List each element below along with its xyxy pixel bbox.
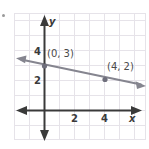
point-label-0-3: (0, 3) bbox=[47, 49, 74, 59]
x-tick-label-4: 4 bbox=[101, 114, 108, 124]
data-point-0-3 bbox=[42, 63, 47, 68]
y-axis-label: y bbox=[49, 17, 56, 27]
x-tick-label-2: 2 bbox=[71, 114, 78, 124]
y-tick-label-4: 4 bbox=[34, 47, 41, 57]
graph-screenshot: 4 2 2 4 y x (0, 3) (4, 2) bbox=[0, 0, 149, 149]
data-point-4-2 bbox=[102, 77, 107, 82]
y-tick-label-2: 2 bbox=[34, 76, 41, 86]
point-label-4-2: (4, 2) bbox=[107, 62, 134, 72]
coordinate-plane bbox=[0, 0, 149, 149]
x-axis-label: x bbox=[129, 114, 135, 124]
